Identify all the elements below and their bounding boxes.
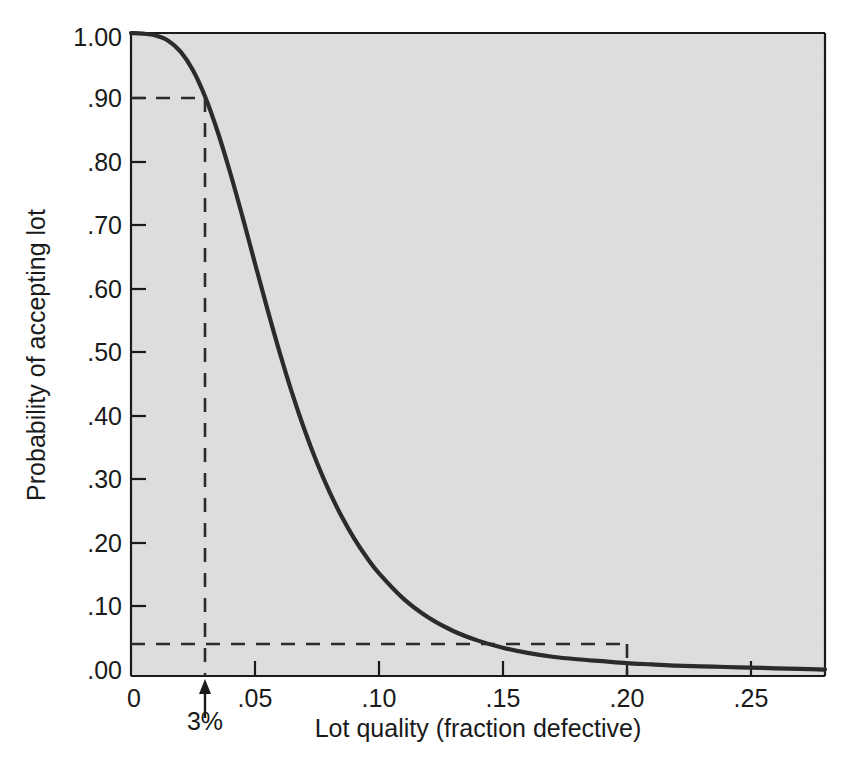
- plot-area: [131, 33, 825, 676]
- x-tick-label-0.25: .25: [734, 684, 769, 712]
- y-tick-label-0.10: .10: [87, 592, 122, 620]
- x-tick-label-0.15: .15: [486, 684, 521, 712]
- aql-label: 3%: [187, 707, 223, 735]
- y-tick-label-0.30: .30: [87, 465, 122, 493]
- y-tick-label-1.00: 1.00: [73, 23, 122, 51]
- y-tick-label-0.90: .90: [87, 84, 122, 112]
- y-axis-title: Probability of accepting lot: [22, 209, 50, 501]
- y-tick-label-0.20: .20: [87, 529, 122, 557]
- y-tick-label-0.60: .60: [87, 275, 122, 303]
- x-axis-title: Lot quality (fraction defective): [315, 714, 642, 742]
- plot-background: [131, 33, 825, 676]
- x-tick-labels: 0 .05 .10 .15 .20 .25: [127, 684, 768, 712]
- x-tick-label-0.10: .10: [362, 684, 397, 712]
- aql-arrow-head: [199, 679, 211, 694]
- oc-curve-figure: 1.00 .90 .80 .70 .60 .50 .40 .30 .20 .10…: [0, 0, 865, 767]
- x-tick-label-0: 0: [127, 684, 141, 712]
- y-tick-label-0.00: .00: [87, 656, 122, 684]
- y-tick-label-0.50: .50: [87, 338, 122, 366]
- y-tick-label-0.40: .40: [87, 402, 122, 430]
- oc-curve-chart: 1.00 .90 .80 .70 .60 .50 .40 .30 .20 .10…: [0, 0, 865, 767]
- x-tick-label-0.20: .20: [610, 684, 645, 712]
- y-tick-labels: 1.00 .90 .80 .70 .60 .50 .40 .30 .20 .10…: [73, 23, 122, 684]
- x-tick-label-0.05: .05: [238, 684, 273, 712]
- y-tick-label-0.70: .70: [87, 211, 122, 239]
- y-tick-label-0.80: .80: [87, 148, 122, 176]
